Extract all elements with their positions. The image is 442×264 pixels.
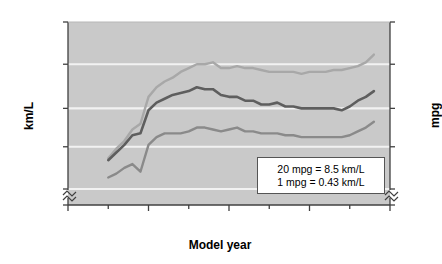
y-axis-left-title: km/L [22, 102, 36, 130]
note-line-1: 20 mpg = 8.5 km/L [277, 163, 364, 175]
conversion-note-box: 20 mpg = 8.5 km/L 1 mpg = 0.43 km/L [257, 157, 385, 194]
x-axis-title: Model year [0, 238, 440, 252]
y-axis-right-title: mpg [428, 103, 442, 128]
note-line-2: 1 mpg = 0.43 km/L [277, 176, 364, 188]
